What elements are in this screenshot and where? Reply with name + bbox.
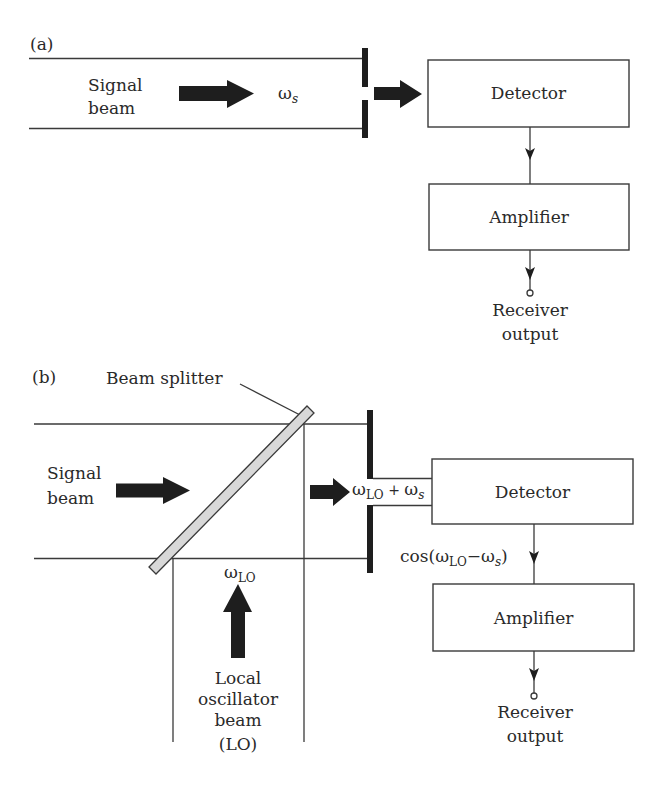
signal-arrow-icon	[179, 80, 254, 108]
beam-splitter-leader-line	[240, 384, 302, 416]
amplifier-label: Amplifier	[493, 608, 575, 628]
output-terminal-icon	[527, 290, 533, 296]
lo-beam-label-line4: (LO)	[219, 734, 258, 754]
aperture-bottom-bar	[367, 505, 373, 573]
output-terminal-icon	[531, 693, 537, 699]
beat-signal-label: cos(ωLO−ωs)	[400, 546, 508, 569]
aperture-bottom-bar	[362, 100, 368, 138]
signal-beam-label-line2: beam	[47, 488, 94, 508]
signal-beam-label-line1: Signal	[47, 463, 102, 483]
diagram-canvas: (a) Signal beam ωs Detector Amplifier Re…	[0, 0, 665, 787]
signal-beam-label-line1: Signal	[88, 75, 143, 95]
panel-a: (a) Signal beam ωs Detector Amplifier Re…	[29, 34, 629, 344]
signal-beam-label-line2: beam	[88, 98, 135, 118]
detector-label: Detector	[491, 83, 567, 103]
amplifier-label: Amplifier	[488, 207, 570, 227]
combined-beam-arrow-icon	[310, 478, 350, 506]
signal-frequency-label: ωs	[278, 83, 298, 106]
lo-beam-label-line3: beam	[214, 710, 261, 730]
detector-label: Detector	[495, 482, 571, 502]
receiver-output-label-line2: output	[507, 726, 564, 746]
panel-a-label: (a)	[30, 34, 53, 54]
panel-b-label: (b)	[32, 367, 56, 387]
lo-beam-label-line2: oscillator	[198, 689, 279, 709]
receiver-output-label-line1: Receiver	[497, 702, 574, 722]
lo-beam-arrow-icon	[223, 584, 252, 658]
receiver-output-label-line2: output	[502, 324, 559, 344]
beam-splitter-label: Beam splitter	[106, 368, 223, 388]
aperture-top-bar	[362, 48, 368, 87]
lo-frequency-label: ωLO	[224, 562, 256, 585]
panel-b: (b) Beam splitter Signal beam ωLO + ωs D…	[32, 367, 634, 754]
aperture-output-arrow-icon	[374, 80, 422, 108]
signal-arrow-icon	[116, 477, 190, 504]
aperture-top-bar	[367, 410, 373, 479]
lo-beam-label-line1: Local	[215, 668, 262, 688]
mixed-frequency-label: ωLO + ωs	[352, 479, 424, 502]
receiver-output-label-line1: Receiver	[492, 300, 569, 320]
